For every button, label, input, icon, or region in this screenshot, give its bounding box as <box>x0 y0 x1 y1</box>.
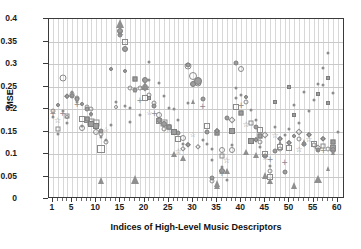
x-tick-minor <box>153 198 154 201</box>
gridline-vertical <box>135 19 136 197</box>
data-point-dot <box>211 147 214 150</box>
data-point-dot <box>235 86 238 89</box>
data-point-star: ☆ <box>242 121 251 129</box>
y-tick-label: 0.35 <box>0 36 17 46</box>
gridline-vertical <box>106 19 107 197</box>
data-point-dot <box>124 104 127 107</box>
data-point-dot <box>322 84 325 87</box>
data-point-square-open <box>55 127 60 132</box>
data-point-circle-filled <box>292 134 296 138</box>
x-tick-minor <box>317 198 318 201</box>
y-tick-label: 0.1 <box>5 148 17 158</box>
data-point-circle-filled <box>84 107 89 112</box>
data-point-plus: + <box>299 141 308 149</box>
data-point-dot <box>307 109 310 112</box>
x-tick-mark <box>119 198 120 202</box>
data-point-dot <box>104 139 107 142</box>
data-point-dot <box>129 121 132 124</box>
data-point-dot <box>148 60 151 63</box>
gridline-horizontal <box>49 177 343 178</box>
x-tick-minor <box>124 198 125 201</box>
data-point-square-open <box>175 136 181 142</box>
y-tick-mark <box>43 108 48 109</box>
x-tick-minor <box>235 198 236 201</box>
data-point-dot <box>71 91 74 94</box>
y-axis-label: MSE <box>5 69 15 129</box>
data-point-plus: + <box>116 31 125 39</box>
data-point-dot <box>206 143 209 146</box>
x-tick-minor <box>134 198 135 201</box>
gridline-vertical <box>63 19 64 197</box>
data-point-star: ☆ <box>174 148 183 156</box>
x-tick-minor <box>139 198 140 201</box>
gridline-vertical <box>265 19 266 197</box>
gridline-vertical <box>96 19 97 197</box>
y-tick-label: 0.3 <box>5 58 17 68</box>
x-tick-minor <box>226 198 227 201</box>
data-point-diamond-filled <box>65 94 70 99</box>
x-tick-minor <box>221 198 222 201</box>
y-tick-mark <box>43 198 48 199</box>
data-point-dot <box>235 96 238 99</box>
x-axis-label: Indices of High-Level Music Descriptors <box>110 222 281 232</box>
data-point-dot <box>269 165 272 168</box>
y-tick-mark <box>43 86 48 87</box>
gridline-vertical <box>333 19 334 197</box>
data-point-circle-filled <box>56 103 60 107</box>
gridline-vertical <box>178 19 179 197</box>
y-tick-mark <box>43 131 48 132</box>
x-tick-minor <box>279 198 280 201</box>
data-point-dot <box>129 106 132 109</box>
data-point-star: ☆ <box>189 131 197 138</box>
data-point-circle-open <box>268 168 273 173</box>
data-point-circle-filled <box>205 129 210 134</box>
x-tick-minor <box>90 198 91 201</box>
data-point-dot <box>100 136 103 139</box>
data-point-plus: + <box>280 159 289 167</box>
x-tick-minor <box>115 198 116 201</box>
gridline-vertical <box>323 19 324 197</box>
x-tick-minor <box>255 198 256 201</box>
x-tick-mark <box>216 198 217 202</box>
x-tick-mark <box>240 198 241 202</box>
data-point-dot <box>138 114 141 117</box>
x-tick-minor <box>206 198 207 201</box>
x-tick-minor <box>327 198 328 201</box>
x-tick-minor <box>158 198 159 201</box>
data-point-plus: + <box>150 110 159 118</box>
data-point-star: ☆ <box>222 157 231 165</box>
y-tick-label: 0.4 <box>5 13 17 23</box>
data-point-star: ☆ <box>130 87 139 95</box>
data-point-triangle-open <box>326 166 330 171</box>
data-point-dot <box>273 126 276 129</box>
data-point-dot <box>51 116 54 119</box>
gridline-vertical <box>294 19 295 197</box>
data-point-dot <box>66 121 69 124</box>
data-point-dot <box>109 123 112 126</box>
data-point-plus: + <box>266 156 275 164</box>
data-point-circle-open <box>229 147 235 153</box>
gridline-horizontal <box>49 64 343 65</box>
x-tick-mark <box>168 198 169 202</box>
data-point-dot <box>327 51 330 54</box>
data-point-dot <box>90 114 93 117</box>
data-point-plus: + <box>319 147 328 155</box>
gridline-vertical <box>304 19 305 197</box>
x-tick-mark <box>95 198 96 202</box>
data-point-circle-filled <box>123 69 127 73</box>
gridline-vertical <box>101 19 102 197</box>
x-tick-mark <box>52 198 53 202</box>
x-tick-minor <box>269 198 270 201</box>
gridline-vertical <box>314 19 315 197</box>
data-point-dot <box>336 131 339 134</box>
x-tick-minor <box>202 198 203 201</box>
data-point-triangle-open <box>98 177 104 184</box>
x-tick-minor <box>245 198 246 201</box>
data-point-circle-open <box>114 105 118 109</box>
data-point-square-filled <box>316 92 320 96</box>
data-point-circle-filled <box>186 62 191 67</box>
data-point-dot <box>167 107 170 110</box>
x-tick-label: 5 <box>69 202 74 212</box>
data-point-triangle-open <box>191 99 195 104</box>
x-tick-mark <box>192 198 193 202</box>
